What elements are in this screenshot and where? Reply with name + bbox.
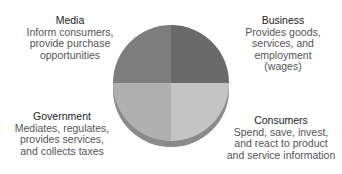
media-desc-2: provide purchase: [30, 37, 111, 49]
business-desc-3: employment: [254, 49, 311, 61]
business-label: Business Provides goods, services, and e…: [228, 15, 338, 73]
sector-media: [113, 25, 171, 83]
business-desc-4: (wages): [264, 60, 301, 72]
media-desc-3: opportunities: [40, 49, 100, 61]
consumers-desc-2: and react to product: [234, 137, 327, 149]
sector-business: [171, 25, 229, 83]
government-desc-3: and collects taxes: [20, 145, 103, 157]
business-desc-2: services, and: [252, 37, 314, 49]
business-desc-1: Provides goods,: [245, 26, 320, 38]
media-label: Media Inform consumers, provide purchase…: [20, 15, 120, 61]
consumers-desc-3: and service information: [227, 149, 336, 161]
consumers-desc-1: Spend, save, invest,: [234, 126, 329, 138]
media-desc-1: Inform consumers,: [27, 26, 114, 38]
consumers-label: Consumers Spend, save, invest, and react…: [220, 115, 342, 161]
government-desc-2: provides services,: [20, 133, 104, 145]
government-desc-1: Mediates, regulates,: [15, 122, 110, 134]
government-label: Government Mediates, regulates, provides…: [2, 111, 122, 157]
